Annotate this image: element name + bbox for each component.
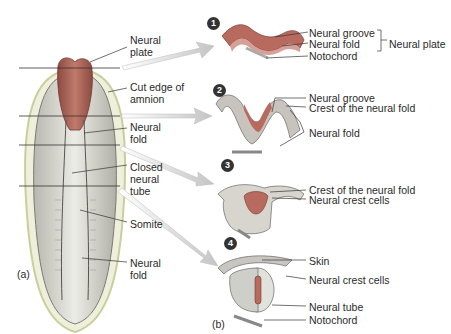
- label-neural-plate: Neural plate: [130, 34, 161, 58]
- section-arrows: [118, 42, 218, 266]
- embryo-illustration: [25, 58, 125, 332]
- s4-skin: Skin: [309, 255, 329, 267]
- s2-neural-fold: Neural fold: [309, 127, 360, 139]
- step-1-badge: 1: [207, 17, 220, 30]
- label-neural-fold-lower: Neural fold: [130, 257, 161, 281]
- step-3-badge: 3: [221, 159, 234, 172]
- label-cut-edge-amnion: Cut edge of amnion: [130, 81, 184, 105]
- step-2-badge: 2: [213, 84, 226, 97]
- panel-b-label: (b): [212, 318, 225, 330]
- label-somite: Somite: [130, 218, 163, 230]
- panel-a-label: (a): [17, 268, 30, 280]
- label-closed-neural-tube: Closed neural tube: [130, 161, 163, 197]
- s1-neural-fold: Neural fold: [309, 38, 360, 50]
- s4-neural-crest-cells: Neural crest cells: [309, 274, 390, 286]
- step-4-badge: 4: [224, 237, 237, 250]
- step3-illustration: [218, 185, 306, 238]
- label-neural-fold: Neural fold: [130, 121, 161, 145]
- s3-neural-crest-cells: Neural crest cells: [309, 194, 390, 206]
- s1-notochord: Notochord: [309, 50, 357, 62]
- step4-illustration: [218, 256, 306, 326]
- s4-neural-tube: Neural tube: [309, 301, 363, 313]
- step2-illustration: [216, 95, 306, 152]
- s2-crest-neural-fold: Crest of the neural fold: [309, 102, 415, 114]
- s1-neural-plate-bracket-label: Neural plate: [389, 38, 446, 50]
- s4-notochord: Notochord: [309, 314, 357, 326]
